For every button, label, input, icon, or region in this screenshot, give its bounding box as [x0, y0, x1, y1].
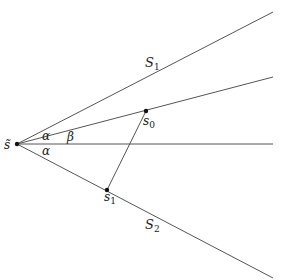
point-s0: [144, 109, 148, 113]
label-point-s0: s0: [143, 114, 155, 130]
vertex-label: s̃: [4, 138, 11, 152]
diagram-canvas: s̃ S1 S2 s0 s1 α β α: [0, 0, 282, 280]
wedge-diagram: s̃ S1 S2 s0 s1 α β α: [0, 0, 282, 280]
segment-s0-s1: [107, 111, 146, 190]
angle-beta: β: [66, 130, 74, 144]
angle-alpha-lower: α: [42, 144, 50, 158]
label-s1-ray: S1: [145, 55, 160, 72]
angle-alpha-upper: α: [42, 129, 50, 143]
vertex-point: [15, 142, 19, 146]
label-s2-ray: S2: [145, 217, 160, 234]
label-point-s1: s1: [104, 190, 116, 206]
ray-s2: [17, 144, 273, 278]
